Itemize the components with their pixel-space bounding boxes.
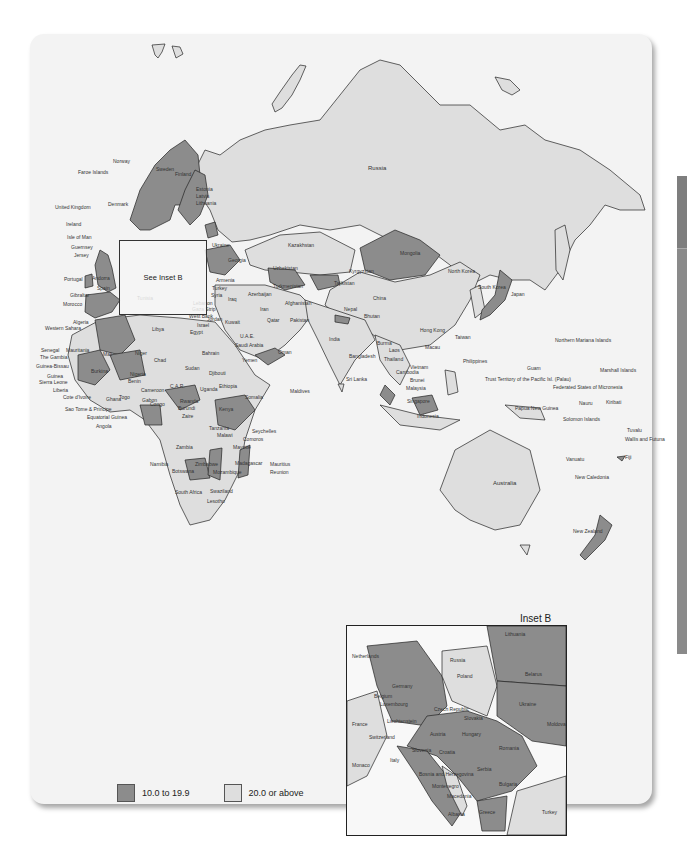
inset-country-label: Hungary xyxy=(462,731,481,737)
country-label: Togo xyxy=(119,394,130,400)
see-inset-box[interactable]: See Inset B xyxy=(119,240,207,315)
country-label: Thailand xyxy=(384,356,403,362)
novaya-zemlya-shape xyxy=(272,65,306,112)
country-label: Mongolia xyxy=(400,250,421,256)
country-label: Mauritius xyxy=(270,461,291,467)
country-label: Burundi xyxy=(178,405,195,411)
country-label: Jersey xyxy=(74,252,89,258)
country-label: United Kingdom xyxy=(55,204,91,210)
country-label: Andorra xyxy=(92,275,110,281)
country-label: Sierra Leone xyxy=(39,379,68,385)
country-label: Syria xyxy=(211,292,223,298)
legend-label-low: 10.0 to 19.9 xyxy=(142,788,190,798)
country-label: South Korea xyxy=(478,284,506,290)
inset-country-label: Albania xyxy=(448,811,465,817)
country-label: Japan xyxy=(511,291,525,297)
legend-swatch-low xyxy=(117,784,135,802)
country-label: Djibouti xyxy=(209,370,226,376)
country-label: Burkina xyxy=(91,368,108,374)
inset-country-label: Czech Republic xyxy=(434,706,470,712)
inset-country-label: Belgium xyxy=(374,693,392,699)
country-label: Equatorial Guinea xyxy=(87,414,127,420)
inset-country-label: Bulgaria xyxy=(499,781,518,787)
country-label: Qatar xyxy=(267,317,280,323)
inset-country-label: Serbia xyxy=(477,766,492,772)
country-label: Israel xyxy=(197,322,209,328)
inset-country-label: Turkey xyxy=(542,809,558,815)
country-label: Bangladesh xyxy=(349,353,376,359)
country-label: Sweden xyxy=(156,166,174,172)
country-label: Indonesia xyxy=(417,413,439,419)
country-label: Tuvalu xyxy=(627,427,642,433)
country-label: Ethiopia xyxy=(219,383,237,389)
country-label: Fiji xyxy=(625,454,631,460)
inset-country-label: Macedonia xyxy=(447,793,472,799)
country-label: Cote d'Ivoire xyxy=(63,394,91,400)
country-label: Somalia xyxy=(245,394,263,400)
country-label: Western Sahara xyxy=(45,325,81,331)
country-label: Namibia xyxy=(150,461,169,467)
inset-country-label: Greece xyxy=(479,809,496,815)
country-label: Taiwan xyxy=(455,334,471,340)
country-label: Nepal xyxy=(344,306,357,312)
country-label: Guernsey xyxy=(71,244,93,250)
country-label: Bhutan xyxy=(364,313,380,319)
inset-country-label: Croatia xyxy=(439,749,455,755)
country-label: Wallis and Futuna xyxy=(625,436,665,442)
country-label: Finland xyxy=(175,171,192,177)
country-label: Iran xyxy=(260,306,269,312)
country-label: Macau xyxy=(425,344,440,350)
country-label: Lithuania xyxy=(196,200,217,206)
country-label: Azerbaijan xyxy=(248,291,272,297)
country-label: U.A.E. xyxy=(240,333,254,339)
svalbard-east-shape xyxy=(172,46,183,58)
country-label: Zaire xyxy=(182,413,194,419)
country-label: Seychelles xyxy=(252,428,277,434)
legend-swatch-high xyxy=(224,784,242,802)
svalbard-shape xyxy=(152,44,165,58)
inset-country-label: Liechtenstein xyxy=(387,718,417,724)
country-label: Iraq xyxy=(228,296,237,302)
sri-lanka-shape xyxy=(338,384,344,392)
philippines-shape xyxy=(445,370,458,395)
country-label: Lesotho xyxy=(207,498,225,504)
country-label: Georgia xyxy=(228,257,246,263)
tasmania-shape xyxy=(520,545,530,555)
country-label: Nauru xyxy=(579,400,593,406)
inset-country-label: Bosnia and Herzegovina xyxy=(419,771,474,777)
country-label: Morocco xyxy=(63,301,82,307)
country-label: Trust Territory of the Pacific Isl. (Pal… xyxy=(485,376,571,382)
inset-country-label: Italy xyxy=(390,757,400,763)
belarus-lithuania-shape xyxy=(487,626,566,686)
country-label: Comoros xyxy=(243,436,264,442)
country-label: Isle of Man xyxy=(67,234,92,240)
country-label: Sudan xyxy=(185,365,200,371)
country-label: Australia xyxy=(493,480,517,486)
country-label: Nigeria xyxy=(130,371,146,377)
kazakhstan-shape xyxy=(245,232,355,275)
inset-country-label: Netherlands xyxy=(352,653,379,659)
country-label: Libya xyxy=(152,326,164,332)
map-legend: 10.0 to 19.9 20.0 or above xyxy=(117,784,338,802)
country-label: Uzbekistan xyxy=(273,265,298,271)
country-label: The Gambia xyxy=(40,354,68,360)
inset-country-label: Monaco xyxy=(352,762,370,768)
country-label: Liberia xyxy=(53,387,68,393)
country-label: Northern Mariana Islands xyxy=(555,337,612,343)
country-label: Uganda xyxy=(200,386,218,392)
country-label: Latvia xyxy=(196,193,210,199)
country-label: Philippines xyxy=(463,358,488,364)
country-label: Federated States of Micronesia xyxy=(553,384,623,390)
country-label: Marshall Islands xyxy=(600,367,637,373)
country-label: Benin xyxy=(128,378,141,384)
country-label: Chad xyxy=(154,357,166,363)
country-label: Denmark xyxy=(108,201,129,207)
country-label: Norway xyxy=(113,158,130,164)
country-label: South Africa xyxy=(175,489,202,495)
country-label: Armenia xyxy=(216,277,235,283)
country-label: Estonia xyxy=(196,186,213,192)
inset-country-label: Slovenia xyxy=(412,747,431,753)
country-label: Bahrain xyxy=(202,350,219,356)
new-zealand-shape xyxy=(580,515,612,560)
australia-shape xyxy=(440,430,540,530)
